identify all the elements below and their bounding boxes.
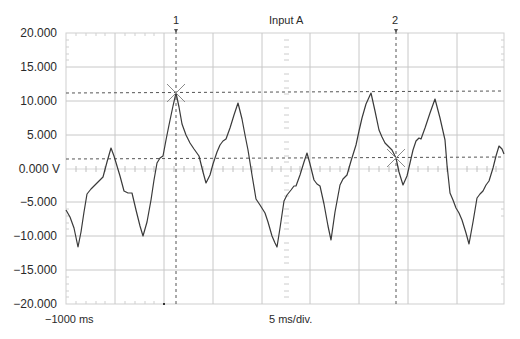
y-tick-5: 5.000 xyxy=(27,128,57,142)
y-tick-15: 15.000 xyxy=(20,60,57,74)
oscilloscope-plot xyxy=(0,0,520,339)
cursor-2-label: 2 xyxy=(392,14,398,26)
horizontal-cursor-1[interactable] xyxy=(66,91,504,93)
cursor-2-marker-icon[interactable] xyxy=(394,29,398,33)
timebase-label: 5 ms/div. xyxy=(269,313,312,325)
y-tick-neg20: −20.000 xyxy=(13,297,57,311)
horizontal-cursor-2[interactable] xyxy=(66,157,504,159)
y-tick-20: 20.000 xyxy=(20,26,57,40)
trigger-marker-icon xyxy=(163,303,165,305)
y-tick-0: 0.000 V xyxy=(19,162,60,176)
channel-label: Input A xyxy=(269,14,303,26)
y-tick-10: 10.000 xyxy=(20,94,57,108)
time-offset-label: −1000 ms xyxy=(45,313,94,325)
y-tick-neg15: −15.000 xyxy=(13,263,57,277)
center-axis-ticks xyxy=(66,166,504,172)
cursor-1-marker-icon[interactable] xyxy=(174,29,178,33)
y-tick-neg10: −10.000 xyxy=(13,229,57,243)
cursor-1-label: 1 xyxy=(173,14,179,26)
y-tick-neg5: −5.000 xyxy=(20,195,57,209)
